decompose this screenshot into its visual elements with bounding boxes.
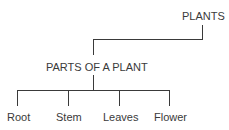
root-node-label: PLANTS (182, 10, 225, 22)
leaf-leaves-label: Leaves (103, 111, 138, 123)
leaf-flower-label: Flower (154, 111, 187, 123)
leaf-stem-label: Stem (56, 111, 82, 123)
parts-node-label: PARTS OF A PLANT (46, 61, 148, 73)
leaf-root-label: Root (7, 111, 30, 123)
